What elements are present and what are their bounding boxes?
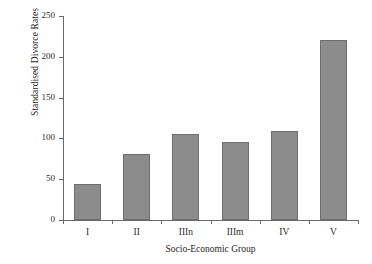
bar [271, 131, 298, 220]
y-axis-tick-label: 50 [46, 172, 55, 185]
x-axis-tick-label: V [309, 226, 358, 239]
x-axis-tick [358, 220, 359, 224]
bar [123, 154, 150, 220]
y-axis-tick: 150 [59, 98, 63, 99]
y-axis-tick: 250 [59, 16, 63, 17]
y-axis-tick: 200 [59, 57, 63, 58]
x-axis-tick-label: IIIm [211, 226, 260, 239]
x-axis-tick [211, 220, 212, 224]
y-axis-tick: 50 [59, 179, 63, 180]
bar-chart-figure: Standardised Divorce Rates 0501001502002… [0, 0, 372, 264]
x-axis-tick-label: I [63, 226, 112, 239]
y-axis-tick-label: 250 [42, 9, 56, 22]
x-axis-tick [112, 220, 113, 224]
x-axis-tick-label: II [112, 226, 161, 239]
y-axis-line [63, 16, 64, 220]
y-axis-tick-label: 150 [42, 91, 56, 104]
bar [222, 142, 249, 220]
x-axis-tick [161, 220, 162, 224]
x-axis-tick-label: IV [260, 226, 309, 239]
x-axis-tick [63, 220, 64, 224]
x-axis-tick-label: IIIn [161, 226, 210, 239]
x-axis-tick [309, 220, 310, 224]
y-axis-tick-label: 200 [42, 50, 56, 63]
y-axis-tick-label: 100 [42, 131, 56, 144]
bar [172, 134, 199, 220]
bar [74, 184, 101, 220]
bar [320, 40, 347, 220]
x-axis-title: Socio-Economic Group [63, 243, 358, 256]
plot-area: 050100150200250 IIIIIInIIImIVV [63, 16, 358, 220]
x-axis-tick [260, 220, 261, 224]
y-axis-tick-label: 0 [51, 213, 56, 226]
y-axis-tick: 100 [59, 138, 63, 139]
